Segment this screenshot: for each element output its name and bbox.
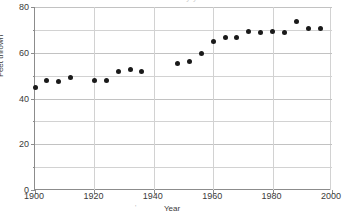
y-tick-40 <box>31 99 35 100</box>
y-tick-80 <box>31 7 35 8</box>
gridline-minor-y-30 <box>35 121 332 122</box>
y-tick-label-80: 80 <box>1 3 29 12</box>
data-point <box>306 26 311 31</box>
gridline-minor-y-10 <box>35 167 332 168</box>
data-point <box>199 51 204 56</box>
data-point <box>223 35 228 40</box>
x-tick-label-2000: 2000 <box>311 192 344 201</box>
gridline-x-1920 <box>94 7 95 190</box>
y-tick-minor-30 <box>33 121 35 122</box>
data-point <box>318 26 323 31</box>
data-point <box>234 35 239 40</box>
chart-title: Feet thrown by year <box>0 0 344 2</box>
data-point <box>139 69 144 74</box>
data-point <box>187 59 192 64</box>
data-point <box>246 29 251 34</box>
gridline-y-20 <box>35 144 332 145</box>
plot-area <box>34 7 331 190</box>
y-tick-minor-50 <box>33 76 35 77</box>
data-point <box>258 30 263 35</box>
y-tick-label-20: 20 <box>1 140 29 149</box>
gridline-y-80 <box>35 7 332 8</box>
x-tick-label-1920: 1920 <box>73 192 113 201</box>
gridline-x-1980 <box>273 7 274 190</box>
x-axis-label: Year <box>0 205 344 213</box>
x-tick-label-1960: 1960 <box>192 192 232 201</box>
data-point <box>92 78 97 83</box>
gridline-minor-y-70 <box>35 30 332 31</box>
y-tick-minor-10 <box>33 167 35 168</box>
data-point <box>104 78 109 83</box>
y-tick-label-60: 60 <box>1 49 29 58</box>
data-point <box>175 61 180 66</box>
data-point <box>294 19 299 24</box>
data-point <box>68 75 73 80</box>
gridline-y-40 <box>35 99 332 100</box>
x-tick-label-1940: 1940 <box>133 192 173 201</box>
data-point <box>282 30 287 35</box>
gridline-x-1940 <box>154 7 155 190</box>
data-point <box>270 29 275 34</box>
x-tick-label-1980: 1980 <box>252 192 292 201</box>
data-point <box>56 79 61 84</box>
y-tick-label-40: 40 <box>1 95 29 104</box>
x-tick-label-1900: 1900 <box>14 192 54 201</box>
data-point <box>33 85 38 90</box>
y-tick-minor-70 <box>33 30 35 31</box>
gridline-x-1960 <box>213 7 214 190</box>
data-point <box>128 67 133 72</box>
data-point <box>211 39 216 44</box>
scatter-chart: Feet thrown by year Feet thrown Year 020… <box>0 0 344 217</box>
gridline-y-60 <box>35 53 332 54</box>
y-tick-20 <box>31 144 35 145</box>
data-point <box>44 78 49 83</box>
gridline-minor-y-50 <box>35 76 332 77</box>
y-tick-60 <box>31 53 35 54</box>
stray-annotation-mark: ' <box>135 204 136 211</box>
data-point <box>116 69 121 74</box>
